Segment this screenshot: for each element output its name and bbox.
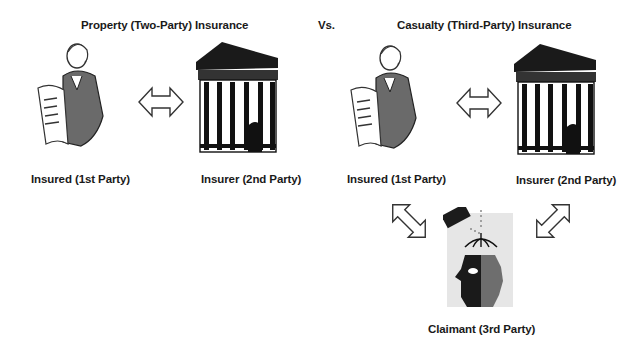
vs-label: Vs. [318,19,335,31]
businesswoman-icon [35,38,110,156]
double-arrow-horizontal-icon [455,85,503,121]
property-insurance-title: Property (Two-Party) Insurance [81,19,248,31]
bank-building-icon [192,40,284,156]
double-arrow-horizontal-icon [137,84,185,120]
insurer-label: Insurer (2nd Party) [201,173,301,185]
insured-label: Insured (1st Party) [347,173,446,185]
injured-person-head-icon [443,207,515,309]
double-arrow-diagonal-icon [532,198,574,244]
bank-building-icon [510,42,602,158]
casualty-insurance-title: Casualty (Third-Party) Insurance [397,19,571,31]
businesswoman-icon [348,40,423,158]
insured-label: Insured (1st Party) [31,173,130,185]
insurer-label: Insurer (2nd Party) [516,174,616,186]
claimant-label: Claimant (3rd Party) [428,323,535,335]
double-arrow-diagonal-icon [388,198,430,244]
